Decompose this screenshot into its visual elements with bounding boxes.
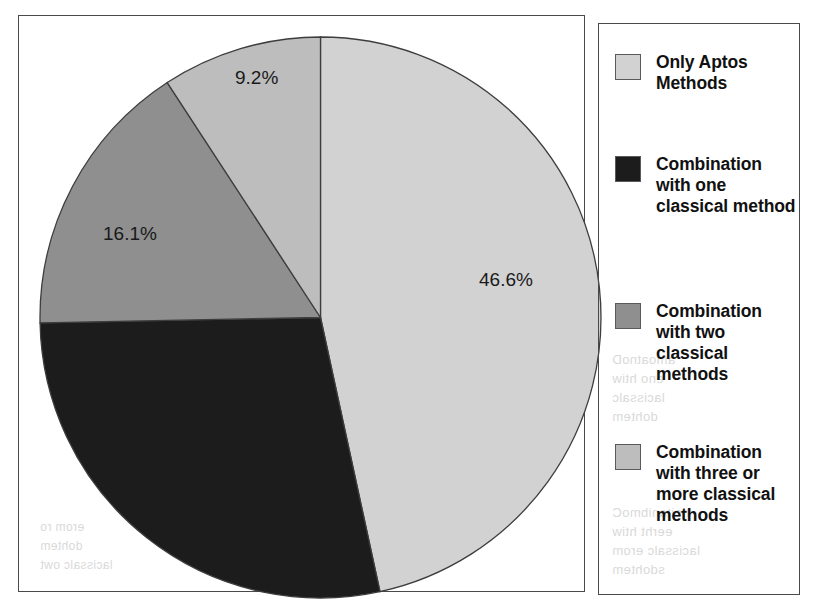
- legend: Only Aptos Methods Combination with one …: [598, 23, 800, 595]
- pie-svg: [39, 36, 602, 599]
- legend-item-combination-three-or-more-classical[interactable]: Combination with three or more classical…: [615, 442, 796, 526]
- legend-label-combination-three-or-more-classical: Combination with three or more classical…: [656, 442, 796, 526]
- slice-label-two-classical: 16.1%: [103, 223, 157, 245]
- pie-slice-combination-one-classical[interactable]: [40, 318, 380, 598]
- legend-swatch-combination-three-or-more-classical: [615, 444, 641, 470]
- slice-label-three-or-more-classical: 9.2%: [235, 67, 278, 89]
- legend-item-only-aptos-methods[interactable]: Only Aptos Methods: [615, 52, 796, 94]
- legend-label-only-aptos-methods: Only Aptos Methods: [656, 52, 796, 94]
- pie-chart-figure: amoatnoDeno htiwlacissalcdohtemnoitanibm…: [0, 0, 813, 602]
- legend-item-combination-two-classical[interactable]: Combination with two classical methods: [615, 301, 796, 385]
- pie-graphic: [39, 36, 602, 599]
- legend-item-combination-one-classical[interactable]: Combination with one classical method: [615, 154, 796, 217]
- legend-label-combination-one-classical: Combination with one classical method: [656, 154, 796, 217]
- chart-plot-area: 46.6% 16.1% 9.2%: [18, 15, 585, 592]
- legend-label-combination-two-classical: Combination with two classical methods: [656, 301, 796, 385]
- legend-swatch-combination-one-classical: [615, 156, 641, 182]
- legend-swatch-combination-two-classical: [615, 303, 641, 329]
- legend-swatch-only-aptos-methods: [615, 54, 641, 80]
- slice-label-only-aptos: 46.6%: [479, 269, 533, 291]
